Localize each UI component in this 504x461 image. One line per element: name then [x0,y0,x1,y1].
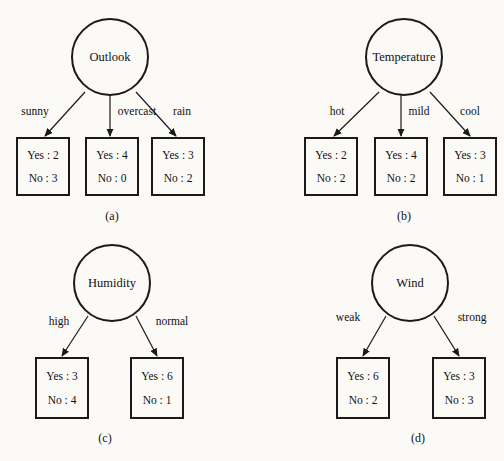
edge-line-c-normal [136,316,157,356]
subfigure-caption-a: (a) [105,210,118,222]
leaf-box-b-cool [444,138,496,195]
edge-label-b-cool: cool [460,106,480,118]
leaf-yes-count-b-cool: Yes : 3 [454,150,485,162]
edge-line-a-sunny [45,92,85,136]
shapes-group [17,19,496,418]
leaf-yes-count-d-strong: Yes : 3 [443,371,474,383]
edge-label-a-overcast: overcast [118,106,156,118]
edge-line-d-strong [434,316,459,356]
leaf-no-count-d-strong: No : 3 [445,395,474,407]
edge-label-a-rain: rain [173,106,191,118]
leaf-no-count-d-weak: No : 2 [349,395,378,407]
leaf-box-d-strong [433,358,485,418]
decision-tree-figure-page: OutlooksunnyYes : 2No : 3overcastYes : 4… [0,0,504,461]
subfigure-caption-b: (b) [397,210,411,222]
leaf-yes-count-a-overcast: Yes : 4 [96,150,127,162]
leaf-box-c-high [36,358,88,418]
leaf-box-a-overcast [86,138,138,195]
leaf-no-count-b-hot: No : 2 [317,173,346,185]
subfigure-caption-d: (d) [411,432,425,444]
leaf-no-count-a-sunny: No : 3 [29,173,58,185]
leaf-no-count-c-normal: No : 1 [143,395,172,407]
edge-label-a-sunny: sunny [21,106,48,118]
leaf-yes-count-b-mild: Yes : 4 [385,150,416,162]
leaf-yes-count-c-normal: Yes : 6 [141,371,172,383]
root-node-label-d: Wind [396,277,423,290]
leaf-yes-count-d-weak: Yes : 6 [347,371,378,383]
edge-label-c-normal: normal [156,316,189,328]
leaf-box-d-weak [337,358,389,418]
root-node-label-a: Outlook [90,51,131,64]
leaf-box-c-normal [131,358,183,418]
edge-label-d-weak: weak [336,312,360,324]
leaf-no-count-c-high: No : 4 [48,395,77,407]
root-node-label-b: Temperature [373,51,436,64]
leaf-no-count-b-mild: No : 2 [387,173,416,185]
edge-label-d-strong: strong [458,312,487,324]
edge-label-b-hot: hot [330,106,345,118]
diagram-vector-layer [0,0,504,461]
leaf-yes-count-a-sunny: Yes : 2 [27,150,58,162]
subfigure-caption-c: (c) [98,432,111,444]
leaf-yes-count-c-high: Yes : 3 [46,371,77,383]
leaf-no-count-a-rain: No : 2 [164,173,193,185]
leaf-yes-count-b-hot: Yes : 2 [315,150,346,162]
leaf-box-a-rain [152,138,204,195]
leaf-box-a-sunny [17,138,69,195]
leaf-box-b-mild [375,138,427,195]
leaf-no-count-a-overcast: No : 0 [98,173,127,185]
edge-line-d-weak [363,316,386,356]
leaf-box-b-hot [305,138,357,195]
edge-label-c-high: high [49,316,69,328]
edge-label-b-mild: mild [408,106,429,118]
leaf-yes-count-a-rain: Yes : 3 [162,150,193,162]
leaf-no-count-b-cool: No : 1 [456,173,485,185]
root-node-label-c: Humidity [88,277,136,290]
